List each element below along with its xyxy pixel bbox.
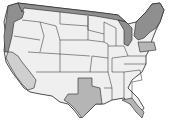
- region-pennsylvania: [138, 42, 156, 52]
- map-caption: · · · · · · · · ·: [4, 122, 28, 126]
- us-map: [0, 0, 182, 129]
